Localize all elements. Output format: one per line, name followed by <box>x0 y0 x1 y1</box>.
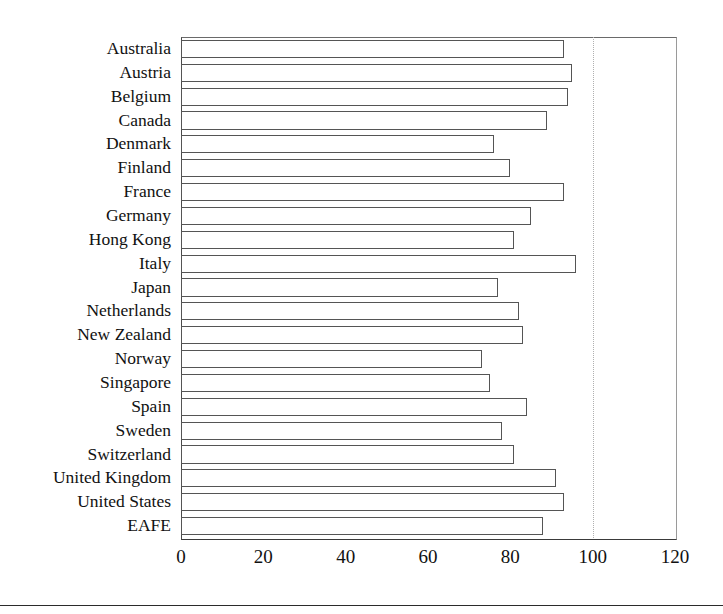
category-label: Austria <box>0 61 176 85</box>
bar <box>181 350 482 368</box>
category-label: Canada <box>0 109 176 133</box>
category-label: Denmark <box>0 132 176 156</box>
bar <box>181 398 527 416</box>
chart-row: EAFE <box>0 514 723 538</box>
bar <box>181 326 523 344</box>
bar <box>181 445 514 463</box>
chart-row: Japan <box>0 276 723 300</box>
chart-row: United Kingdom <box>0 466 723 490</box>
category-label: Australia <box>0 37 176 61</box>
category-label: Singapore <box>0 371 176 395</box>
category-label: Norway <box>0 347 176 371</box>
x-tick-label: 120 <box>661 546 690 568</box>
chart-row: Finland <box>0 156 723 180</box>
chart-row: New Zealand <box>0 323 723 347</box>
category-label: Netherlands <box>0 299 176 323</box>
bar <box>181 422 502 440</box>
bar <box>181 159 510 177</box>
chart-row: Hong Kong <box>0 228 723 252</box>
category-label: United Kingdom <box>0 466 176 490</box>
x-tick-label: 40 <box>336 546 355 568</box>
x-tick-label: 60 <box>419 546 438 568</box>
category-label: New Zealand <box>0 323 176 347</box>
bar <box>181 88 568 106</box>
category-label: Sweden <box>0 419 176 443</box>
bar-chart-figure: AustraliaAustriaBelgiumCanadaDenmarkFinl… <box>0 0 723 614</box>
category-label: France <box>0 180 176 204</box>
category-label: Finland <box>0 156 176 180</box>
bar <box>181 231 514 249</box>
bar <box>181 469 556 487</box>
category-label: EAFE <box>0 514 176 538</box>
chart-row: Switzerland <box>0 443 723 467</box>
bar <box>181 64 572 82</box>
x-tick-label: 100 <box>578 546 607 568</box>
chart-row: Australia <box>0 37 723 61</box>
chart-row: Italy <box>0 252 723 276</box>
bar <box>181 40 564 58</box>
x-tick-label: 0 <box>176 546 186 568</box>
bar <box>181 207 531 225</box>
chart-row: United States <box>0 490 723 514</box>
category-label: United States <box>0 490 176 514</box>
category-label: Germany <box>0 204 176 228</box>
x-axis: 020406080100120 <box>181 538 675 572</box>
chart-row: Canada <box>0 109 723 133</box>
chart-row: Netherlands <box>0 299 723 323</box>
category-label: Hong Kong <box>0 228 176 252</box>
bar <box>181 183 564 201</box>
chart-row: Germany <box>0 204 723 228</box>
bar <box>181 135 494 153</box>
chart-row: Sweden <box>0 419 723 443</box>
chart-row: France <box>0 180 723 204</box>
chart-row: Denmark <box>0 132 723 156</box>
x-tick-label: 20 <box>254 546 273 568</box>
category-label: Spain <box>0 395 176 419</box>
bar <box>181 255 576 273</box>
category-label: Belgium <box>0 85 176 109</box>
chart-row: Belgium <box>0 85 723 109</box>
bar <box>181 302 519 320</box>
category-label: Italy <box>0 252 176 276</box>
bottom-divider <box>0 605 723 606</box>
bar <box>181 374 490 392</box>
x-tick-label: 80 <box>501 546 520 568</box>
chart-row: Singapore <box>0 371 723 395</box>
gridline <box>593 37 594 538</box>
bar <box>181 517 543 535</box>
bar <box>181 493 564 511</box>
bar <box>181 111 547 129</box>
bar <box>181 278 498 296</box>
category-label: Switzerland <box>0 443 176 467</box>
chart-row: Spain <box>0 395 723 419</box>
category-label: Japan <box>0 276 176 300</box>
chart-row: Austria <box>0 61 723 85</box>
chart-row: Norway <box>0 347 723 371</box>
